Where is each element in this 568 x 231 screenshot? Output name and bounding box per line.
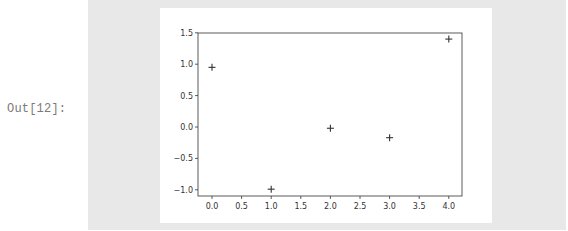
x-tick-label: 0.5 bbox=[235, 202, 248, 211]
x-tick-label: 2.5 bbox=[354, 202, 367, 211]
x-tick-label: 3.5 bbox=[413, 202, 426, 211]
x-axis-ticks: 0.00.51.01.52.02.53.03.54.0 bbox=[206, 196, 456, 211]
y-tick-label: 1.5 bbox=[180, 29, 193, 38]
y-tick-label: −0.5 bbox=[174, 154, 193, 163]
x-tick-label: 2.0 bbox=[324, 202, 337, 211]
plus-marker-icon bbox=[445, 36, 452, 43]
plus-marker-icon bbox=[327, 125, 334, 132]
y-tick-label: 0.5 bbox=[180, 92, 193, 101]
x-tick-label: 3.0 bbox=[383, 202, 396, 211]
y-tick-label: 0.0 bbox=[180, 123, 193, 132]
axes-frame bbox=[198, 33, 462, 196]
y-tick-label: −1.0 bbox=[174, 186, 193, 195]
axes-border bbox=[198, 33, 462, 196]
plus-marker-icon bbox=[209, 64, 216, 71]
y-tick-label: 1.0 bbox=[180, 60, 193, 69]
x-tick-label: 1.5 bbox=[294, 202, 307, 211]
scatter-plot: 0.00.51.01.52.02.53.03.54.0 1.51.00.50.0… bbox=[0, 0, 568, 231]
data-points bbox=[209, 36, 453, 193]
x-tick-label: 0.0 bbox=[206, 202, 219, 211]
plus-marker-icon bbox=[386, 134, 393, 141]
x-tick-label: 1.0 bbox=[265, 202, 278, 211]
y-axis-ticks: 1.51.00.50.0−0.5−1.0 bbox=[174, 29, 198, 195]
plus-marker-icon bbox=[268, 186, 275, 193]
x-tick-label: 4.0 bbox=[442, 202, 455, 211]
